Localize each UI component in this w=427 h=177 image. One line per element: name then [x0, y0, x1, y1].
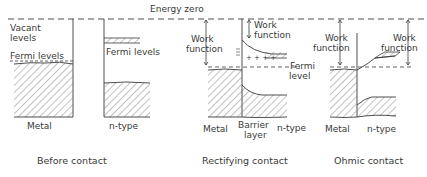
fermi-levels-metal-label: Fermi levels [10, 51, 64, 61]
ntype-label: n-type [277, 123, 307, 133]
caption-before-contact: Before contact [37, 155, 107, 166]
work-function-left-label-2: function [186, 44, 223, 54]
work-function-left-label: Work [325, 33, 349, 43]
work-function-right-label-2: function [381, 43, 418, 53]
conduction-band [104, 38, 140, 43]
metal-filled-levels [208, 69, 242, 117]
ntype-label: n-type [367, 124, 397, 134]
barrier-layer-label-2: layer [244, 130, 267, 140]
fermi-level-label-2: level [289, 71, 310, 81]
caption-rectifying-contact: Rectifying contact [202, 155, 288, 166]
band-diagram: Energy zero Vacant levels Fermi levels F… [0, 0, 427, 177]
panel-rectifying-contact: + + + + Work function Work function Ferm… [186, 19, 315, 166]
panel-before-contact: Vacant levels Fermi levels Fermi levels … [10, 19, 160, 166]
panel-ohmic-contact: Work function Work function Metal n-type… [313, 20, 418, 166]
metal-filled-levels [14, 62, 73, 117]
valence-band [104, 83, 150, 117]
metal-label: Metal [27, 121, 52, 131]
vacant-levels-label-2: levels [10, 33, 36, 43]
metal-label: Metal [325, 124, 350, 134]
svg-text:+ + + +: + + + + [246, 54, 276, 62]
fermi-level-label: Fermi [290, 61, 315, 71]
valence-band [357, 97, 396, 117]
valence-band [242, 85, 287, 117]
work-function-right-label: Work [393, 33, 417, 43]
work-function-left-label: Work [191, 34, 215, 44]
work-function-left-label-2: function [313, 43, 350, 53]
barrier-layer-label: Barrier [238, 120, 269, 130]
vacant-levels-label: Vacant [10, 23, 41, 33]
fermi-levels-semi-label: Fermi levels [106, 47, 160, 57]
work-function-right-label: Work [254, 20, 278, 30]
metal-filled-levels [330, 69, 357, 117]
conduction-band-bend [242, 40, 287, 54]
work-function-right-label-2: function [254, 30, 291, 40]
ntype-label: n-type [109, 121, 139, 131]
metal-label: Metal [203, 124, 228, 134]
caption-ohmic-contact: Ohmic contact [334, 155, 403, 166]
energy-zero-label: Energy zero [150, 4, 204, 14]
